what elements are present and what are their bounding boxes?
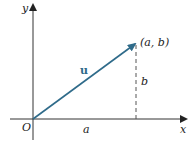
vertical-component-label: b xyxy=(141,75,148,88)
vector-label: u xyxy=(80,64,88,77)
point-label: (a, b) xyxy=(140,36,169,49)
y-axis-label: y xyxy=(21,2,29,15)
vector-u-arrow xyxy=(33,44,135,119)
horizontal-component-label: a xyxy=(83,123,90,136)
vector-diagram: y x O u (a, b) a b xyxy=(0,0,194,147)
x-axis-label: x xyxy=(180,123,187,136)
origin-label: O xyxy=(22,121,31,134)
